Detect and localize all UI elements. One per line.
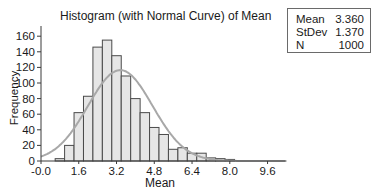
x-axis-label: Mean [140, 176, 180, 190]
y-tick-label: 140 [16, 46, 35, 58]
x-tick-label: 8.0 [222, 165, 238, 177]
histogram-bar [102, 40, 111, 161]
stats-label: N [296, 39, 304, 52]
histogram-bar [150, 127, 159, 161]
histogram-bar [159, 134, 168, 161]
x-tick-label: 3.2 [109, 165, 125, 177]
y-tick-label: 20 [22, 139, 35, 151]
histogram-bar [121, 76, 130, 161]
chart-title: Histogram (with Normal Curve) of Mean [60, 9, 271, 23]
stats-box: Mean 3.360 StDev 1.370 N 1000 [287, 8, 371, 53]
stats-value: 1.370 [335, 26, 364, 39]
histogram-bar [131, 99, 140, 161]
histogram-bar [140, 113, 149, 161]
y-tick-label: 160 [16, 30, 35, 42]
histogram-bar [168, 149, 177, 161]
y-tick-label: 40 [22, 124, 35, 136]
histogram-bar [93, 47, 102, 161]
histogram-bars [55, 40, 234, 161]
stats-value: 1000 [338, 39, 364, 52]
stats-value: 3.360 [335, 13, 364, 26]
stats-label: StDev [296, 26, 327, 39]
stats-label: Mean [296, 13, 325, 26]
y-tick-label: 80 [22, 93, 35, 105]
x-tick-label: 1.6 [71, 165, 87, 177]
stats-row-n: N 1000 [296, 39, 364, 52]
y-axis-label: Frequency [8, 68, 20, 128]
y-tick-label: 60 [22, 108, 35, 120]
x-tick-label: 9.6 [260, 165, 276, 177]
stats-row-mean: Mean 3.360 [296, 13, 364, 26]
x-tick-label: -0.0 [31, 165, 51, 177]
x-tick-label: 6.4 [184, 165, 201, 177]
stats-row-stdev: StDev 1.370 [296, 26, 364, 39]
histogram-bar [65, 145, 74, 161]
